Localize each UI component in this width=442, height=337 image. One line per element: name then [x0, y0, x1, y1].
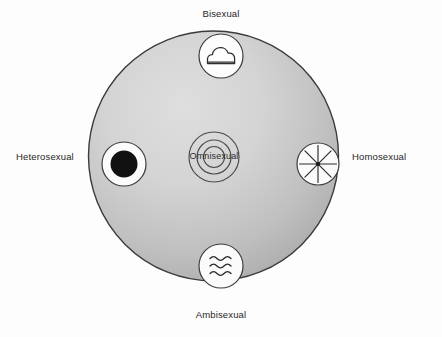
filled-dot-icon: [111, 151, 138, 178]
label-ambisexual: Ambisexual: [0, 309, 442, 320]
asterisk-center-dot-icon: [316, 162, 320, 166]
node-ambisexual[interactable]: [199, 244, 243, 288]
label-heterosexual: Heterosexual: [0, 151, 90, 162]
orientation-diagram: [0, 0, 442, 337]
node-heterosexual[interactable]: [102, 142, 146, 186]
node-bisexual[interactable]: [199, 34, 243, 78]
node-homosexual[interactable]: [297, 143, 339, 185]
bisexual-node-circle: [199, 34, 243, 78]
label-bisexual: Bisexual: [0, 8, 442, 19]
label-omnisexual: Omnisexual: [154, 151, 274, 161]
diagram-canvas: Bisexual Heterosexual Homosexual Ambisex…: [0, 0, 442, 337]
label-homosexual: Homosexual: [352, 151, 442, 162]
ambisexual-node-circle: [199, 244, 243, 288]
